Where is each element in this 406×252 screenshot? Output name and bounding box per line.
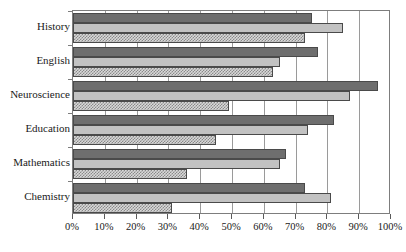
bar-group <box>73 11 389 45</box>
bar <box>73 183 305 193</box>
bar <box>73 193 331 203</box>
x-axis-label-80pct: 80% <box>317 221 336 232</box>
bar-row <box>73 47 389 57</box>
y-axis-category-labels: HistoryEnglishNeuroscienceEducationMathe… <box>0 10 70 214</box>
y-axis-label-chemistry: Chemistry <box>2 191 70 202</box>
bar-group <box>73 45 389 79</box>
bar-group <box>73 113 389 147</box>
bar-row <box>73 81 389 91</box>
x-axis-label-30pct: 30% <box>158 221 177 232</box>
y-axis-tick <box>68 147 73 148</box>
x-axis-tick <box>199 214 200 219</box>
y-axis-label-history: History <box>2 21 70 32</box>
bar <box>73 135 216 145</box>
bar <box>73 149 286 159</box>
bar-row <box>73 23 389 33</box>
x-axis-label-60pct: 60% <box>253 221 272 232</box>
bar-row <box>73 67 389 77</box>
bar-row <box>73 115 389 125</box>
y-axis-tick <box>68 79 73 80</box>
x-axis-tick <box>72 214 73 219</box>
bar-row <box>73 57 389 67</box>
x-axis-tick <box>295 214 296 219</box>
bar <box>73 125 308 135</box>
plot-area <box>72 10 390 214</box>
horizontal-bar-chart: HistoryEnglishNeuroscienceEducationMathe… <box>0 0 406 252</box>
bar-row <box>73 135 389 145</box>
x-axis-tick <box>326 214 327 219</box>
bar-row <box>73 203 389 213</box>
x-axis-label-40pct: 40% <box>190 221 209 232</box>
bar-row <box>73 91 389 101</box>
y-axis-label-english: English <box>2 55 70 66</box>
bar-row <box>73 125 389 135</box>
bar-row <box>73 183 389 193</box>
bar-row <box>73 159 389 169</box>
y-axis-label-mathematics: Mathematics <box>2 157 70 168</box>
bar <box>73 203 172 213</box>
x-axis-label-70pct: 70% <box>285 221 304 232</box>
bar <box>73 67 273 77</box>
bar-row <box>73 193 389 203</box>
bar <box>73 23 343 33</box>
y-axis-label-education: Education <box>2 123 70 134</box>
x-axis-label-50pct: 50% <box>221 221 240 232</box>
bar <box>73 101 229 111</box>
x-axis-label-100pct: 100% <box>378 221 403 232</box>
bar <box>73 47 318 57</box>
x-axis-tick <box>231 214 232 219</box>
y-axis-tick <box>68 11 73 12</box>
bar <box>73 33 305 43</box>
bar-row <box>73 33 389 43</box>
bar <box>73 115 334 125</box>
x-axis-tick <box>263 214 264 219</box>
bar-row <box>73 101 389 111</box>
x-axis-label-0pct: 0% <box>65 221 79 232</box>
bar-group <box>73 147 389 181</box>
x-axis-tick <box>136 214 137 219</box>
bar-row <box>73 13 389 23</box>
bar-row <box>73 169 389 179</box>
bar <box>73 159 280 169</box>
x-axis-tick <box>358 214 359 219</box>
bar-group <box>73 181 389 215</box>
y-axis-tick <box>68 45 73 46</box>
bar-group <box>73 79 389 113</box>
y-axis-tick <box>68 181 73 182</box>
y-axis-label-neuroscience: Neuroscience <box>2 89 70 100</box>
x-axis-label-90pct: 90% <box>349 221 368 232</box>
x-axis-tick <box>104 214 105 219</box>
x-axis-tick <box>167 214 168 219</box>
bar <box>73 13 312 23</box>
y-axis-tick <box>68 113 73 114</box>
bar <box>73 169 187 179</box>
x-axis-label-20pct: 20% <box>126 221 145 232</box>
bar <box>73 57 280 67</box>
x-axis: 0%10%20%30%40%50%60%70%80%90%100% <box>72 214 390 252</box>
bar <box>73 91 350 101</box>
x-axis-tick <box>390 214 391 219</box>
bar <box>73 81 378 91</box>
bar-row <box>73 149 389 159</box>
x-axis-label-10pct: 10% <box>94 221 113 232</box>
